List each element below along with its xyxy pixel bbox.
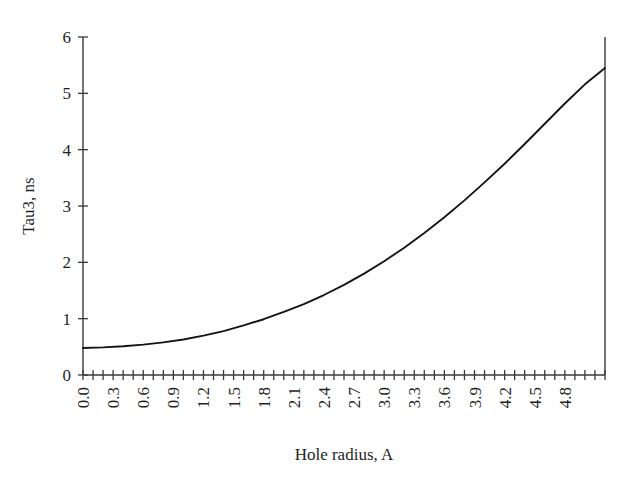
- x-tick-label: 1.8: [255, 387, 274, 408]
- data-series-line: [83, 68, 605, 348]
- x-tick-label: 4.5: [526, 387, 545, 408]
- x-tick-label: 0.0: [74, 387, 93, 408]
- x-tick-label: 3.6: [435, 387, 454, 408]
- x-tick-label: 1.2: [194, 387, 213, 408]
- y-tick-label: 0: [63, 366, 72, 385]
- x-tick-label: 2.1: [285, 387, 304, 408]
- x-tick-label: 0.9: [164, 387, 183, 408]
- x-tick-label: 3.9: [466, 387, 485, 408]
- x-tick-label: 3.3: [405, 387, 424, 408]
- y-tick-label: 4: [63, 141, 72, 160]
- y-axis-title: Tau3, ns: [19, 177, 38, 234]
- x-tick-label: 0.3: [104, 387, 123, 408]
- x-tick-label: 2.7: [345, 387, 364, 409]
- x-axis-title: Hole radius, A: [295, 445, 394, 464]
- x-tick-label: 1.5: [225, 387, 244, 408]
- x-tick-label: 2.4: [315, 387, 334, 409]
- y-tick-label: 2: [63, 253, 72, 272]
- y-tick-label: 1: [63, 310, 72, 329]
- x-tick-label: 3.0: [375, 387, 394, 408]
- y-tick-label: 5: [63, 84, 72, 103]
- x-tick-label: 0.6: [134, 387, 153, 408]
- y-tick-label: 6: [63, 28, 72, 47]
- x-tick-label: 4.8: [556, 387, 575, 408]
- chart-figure: 01234560.00.30.60.91.21.51.82.12.42.73.0…: [0, 0, 628, 478]
- y-tick-label: 3: [63, 197, 72, 216]
- line-chart: 01234560.00.30.60.91.21.51.82.12.42.73.0…: [0, 0, 628, 478]
- x-tick-label: 4.2: [496, 387, 515, 408]
